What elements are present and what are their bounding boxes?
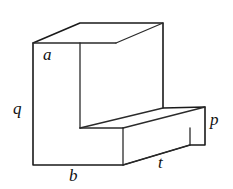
dimension-label-a: a: [43, 46, 52, 63]
dimension-label-t: t: [158, 154, 163, 171]
dimension-label-b: b: [69, 167, 78, 184]
figure-container: a q b t p: [0, 0, 233, 189]
solid-faces: [33, 23, 205, 165]
dimension-label-p: p: [210, 111, 219, 128]
dimension-label-q: q: [13, 100, 22, 117]
l-shaped-solid-drawing: [0, 0, 233, 189]
